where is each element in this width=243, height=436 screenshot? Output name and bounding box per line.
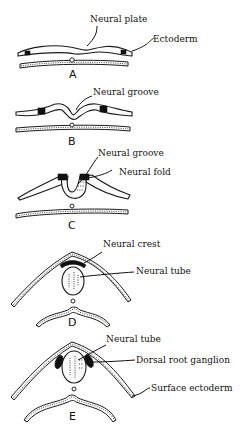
neural-plate-shape <box>18 46 132 56</box>
neural-groove-plate <box>16 104 132 120</box>
label-neural-groove-b: Neural groove <box>93 87 159 97</box>
label-neural-fold: Neural fold <box>119 167 171 177</box>
stage-label-e: E <box>69 410 76 423</box>
notochord <box>70 58 74 62</box>
stage-e: E Neural tube Dorsal root ganglion Surfa… <box>11 334 233 423</box>
label-surface-ectoderm: Surface ectoderm <box>151 383 233 393</box>
label-neural-tube-d: Neural tube <box>136 266 191 276</box>
notochord <box>70 123 74 127</box>
stage-label-d: D <box>68 316 76 329</box>
stage-label-a: A <box>69 68 77 81</box>
stage-d: D Neural crest Neural tube <box>11 239 191 329</box>
leader-neural-plate <box>87 26 97 46</box>
notochord <box>70 204 74 208</box>
label-neural-crest: Neural crest <box>103 239 161 249</box>
leader-neural-fold <box>88 170 112 178</box>
neural-plate-dark-edge-right <box>121 50 126 54</box>
notochord <box>72 387 76 391</box>
label-neural-groove-c: Neural groove <box>98 148 164 158</box>
neural-tube-d <box>62 267 84 295</box>
neural-tube-development-diagram: A Neural plate Ectoderm B Neural groove … <box>0 0 243 436</box>
leader-ectoderm <box>132 38 154 51</box>
stage-b: B Neural groove <box>16 87 159 148</box>
stage-a: A Neural plate Ectoderm <box>18 14 198 81</box>
neural-fold-dark-left <box>58 174 67 180</box>
neural-tube-e <box>62 351 86 383</box>
label-neural-plate: Neural plate <box>90 14 147 24</box>
groove-dark-left <box>38 108 45 114</box>
stage-c: C Neural groove Neural fold <box>16 148 171 232</box>
label-neural-tube-e: Neural tube <box>106 334 161 344</box>
stage-label-c: C <box>68 219 76 232</box>
neural-plate-dark-edge-left <box>25 51 30 55</box>
notochord <box>71 299 75 303</box>
stage-label-b: B <box>68 135 76 148</box>
label-ectoderm: Ectoderm <box>153 34 198 44</box>
groove-dark-right <box>100 106 107 112</box>
label-dorsal-root-ganglion: Dorsal root ganglion <box>136 355 230 365</box>
neural-fold-right-arm <box>86 175 130 199</box>
